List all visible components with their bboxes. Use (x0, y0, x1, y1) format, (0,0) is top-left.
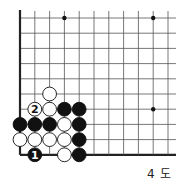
black-stone (43, 118, 57, 132)
white-stone (13, 133, 27, 147)
hoshi-point (151, 16, 155, 20)
white-stone (58, 118, 72, 132)
white-stone (58, 133, 72, 147)
black-stone (58, 102, 72, 116)
move-number-label: 1 (31, 149, 39, 162)
black-stone (13, 118, 27, 132)
black-stone (72, 102, 86, 116)
black-stone (72, 118, 86, 132)
white-stone (58, 148, 72, 162)
white-stone (28, 133, 42, 147)
black-stone (28, 118, 42, 132)
white-stone (43, 102, 57, 116)
hoshi-point (62, 16, 66, 20)
go-board: 21 (0, 0, 188, 186)
hoshi-point (151, 107, 155, 111)
black-stone (72, 148, 86, 162)
white-stone (43, 87, 57, 101)
white-stone (43, 133, 57, 147)
diagram-caption: 4 도 (147, 164, 172, 181)
black-stone (72, 133, 86, 147)
move-number-label: 2 (31, 103, 39, 116)
